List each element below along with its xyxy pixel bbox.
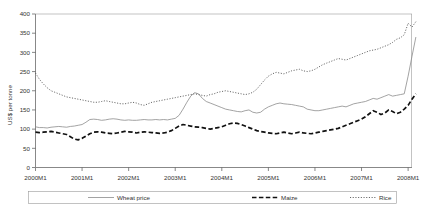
x-tick-label: 2000M1 [24, 174, 47, 181]
price-line-chart: US$ per tonne 050100150200250300350400 2… [0, 0, 425, 210]
y-tick-label: 50 [23, 145, 30, 152]
x-tick-label: 2007M1 [350, 174, 373, 181]
x-tick-label: 2001M1 [71, 174, 94, 181]
series-line-wheat-price [36, 37, 416, 128]
x-tick-label: 2008M1 [397, 174, 420, 181]
x-tick-label: 2003M1 [164, 174, 187, 181]
x-tick-label: 2005M1 [257, 174, 280, 181]
legend-entries: Wheat priceMaizeRice [88, 194, 392, 201]
legend-label-wheat-price: Wheat price [117, 194, 151, 201]
x-tick-label: 2006M1 [304, 174, 327, 181]
x-tick-label: 2002M1 [117, 174, 140, 181]
y-axis-ticks: 050100150200250300350400 [20, 10, 36, 171]
y-tick-label: 350 [20, 29, 31, 36]
x-tick-label: 2004M1 [211, 174, 234, 181]
y-tick-label: 100 [20, 125, 31, 132]
y-axis-title-text: US$ per tonne [6, 84, 13, 124]
y-tick-label: 0 [27, 164, 31, 171]
legend-label-rice: Rice [379, 194, 392, 201]
y-tick-label: 250 [20, 68, 31, 75]
y-tick-label: 400 [20, 10, 31, 17]
legend-label-maize: Maize [281, 194, 298, 201]
chart-series-group [36, 22, 416, 140]
x-axis-ticks: 2000M12001M12002M12003M12004M12005M12006… [24, 168, 420, 181]
series-line-maize [36, 94, 416, 140]
y-tick-label: 150 [20, 106, 31, 113]
y-tick-label: 200 [20, 87, 31, 94]
series-line-rice [36, 22, 416, 106]
chart-figure: US$ per tonne 050100150200250300350400 2… [0, 0, 425, 210]
y-tick-label: 300 [20, 49, 31, 56]
y-axis-title: US$ per tonne [6, 84, 13, 124]
legend-container [29, 192, 397, 204]
